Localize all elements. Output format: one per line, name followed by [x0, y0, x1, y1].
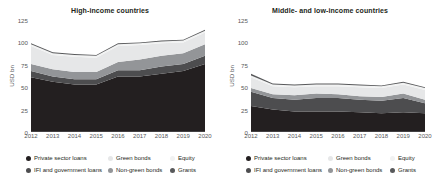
- x-axis-tick: 2016: [331, 133, 344, 139]
- legend-swatch-icon: [108, 168, 113, 173]
- x-axis-tick: 2016: [111, 133, 124, 139]
- legend-item[interactable]: Non-green bonds: [108, 167, 170, 173]
- legend-swatch-icon: [26, 156, 31, 161]
- legend-middle-and-low-income: Private sector loansGreen bondsEquityIFI…: [246, 152, 438, 176]
- legend-item-label: Grants: [178, 167, 196, 173]
- legend-item[interactable]: Grants: [170, 167, 218, 173]
- legend-item-label: Equity: [178, 155, 195, 161]
- legend-item[interactable]: Equity: [170, 155, 218, 161]
- x-axis-tick: 2019: [397, 133, 410, 139]
- y-axis-tick: 100: [18, 39, 28, 46]
- legend-item-label: Green bonds: [116, 155, 151, 161]
- legend-item-label: Equity: [398, 155, 415, 161]
- legend-item[interactable]: Non-green bonds: [328, 167, 390, 173]
- legend-swatch-icon: [108, 156, 113, 161]
- y-axis-tick: 25: [241, 106, 248, 113]
- plot-area-middle-and-low-income: [251, 20, 425, 132]
- plot-area-high-income: [31, 20, 205, 132]
- legend-item-label: Grants: [398, 167, 416, 173]
- y-axis-tick: 125: [18, 17, 28, 24]
- legend-item[interactable]: Private sector loans: [26, 155, 108, 161]
- area-series-high-income: [31, 20, 205, 132]
- legend-item-label: IFI and government loans: [34, 167, 102, 173]
- x-axis-middle-and-low-income: 201220132014201520162017201820192020: [251, 133, 425, 145]
- legend-swatch-icon: [328, 156, 333, 161]
- area-series-middle-and-low-income: [251, 20, 425, 132]
- legend-swatch-icon: [26, 168, 31, 173]
- legend-swatch-icon: [328, 168, 333, 173]
- legend-item[interactable]: IFI and government loans: [26, 167, 108, 173]
- legend-item-label: Private sector loans: [34, 155, 87, 161]
- legend-item-label: Private sector loans: [254, 155, 307, 161]
- legend-item[interactable]: Green bonds: [328, 155, 390, 161]
- legend-high-income: Private sector loansGreen bondsEquityIFI…: [26, 152, 218, 176]
- x-axis-tick: 2012: [24, 133, 37, 139]
- x-axis-tick: 2012: [244, 133, 257, 139]
- y-axis-label-middle-and-low-income: USD bn: [228, 65, 235, 87]
- legend-swatch-icon: [390, 168, 395, 173]
- x-axis-tick: 2014: [288, 133, 301, 139]
- x-axis-tick: 2013: [266, 133, 279, 139]
- y-axis-tick: 75: [241, 61, 248, 68]
- legend-item-label: Non-green bonds: [116, 167, 162, 173]
- legend-item[interactable]: Equity: [390, 155, 438, 161]
- panel-high-income: High-income countries USD bn 02550751001…: [0, 0, 220, 187]
- y-axis-middle-and-low-income: USD bn 0255075100125: [220, 20, 251, 132]
- legend-swatch-icon: [170, 156, 175, 161]
- x-axis-tick: 2017: [133, 133, 146, 139]
- panel-middle-and-low-income: Middle- and low-income countries USD bn …: [220, 0, 440, 187]
- legend-item-label: Green bonds: [336, 155, 371, 161]
- legend-swatch-icon: [170, 168, 175, 173]
- y-axis-label-high-income: USD bn: [8, 65, 15, 87]
- y-axis-tick: 25: [21, 106, 28, 113]
- panel-title-high-income: High-income countries: [0, 7, 220, 14]
- y-axis-tick: 50: [241, 84, 248, 91]
- x-axis-tick: 2018: [155, 133, 168, 139]
- y-axis-tick: 100: [238, 39, 248, 46]
- y-axis-tick: 50: [21, 84, 28, 91]
- x-axis-tick: 2018: [375, 133, 388, 139]
- legend-item-label: IFI and government loans: [254, 167, 322, 173]
- legend-item[interactable]: Green bonds: [108, 155, 170, 161]
- x-axis-tick: 2015: [90, 133, 103, 139]
- legend-swatch-icon: [246, 168, 251, 173]
- legend-item[interactable]: Private sector loans: [246, 155, 328, 161]
- x-axis-tick: 2019: [177, 133, 190, 139]
- legend-item[interactable]: Grants: [390, 167, 438, 173]
- legend-item[interactable]: IFI and government loans: [246, 167, 328, 173]
- x-axis-tick: 2014: [68, 133, 81, 139]
- y-axis-tick: 75: [21, 61, 28, 68]
- panel-title-middle-and-low-income: Middle- and low-income countries: [220, 7, 440, 14]
- x-axis-high-income: 201220132014201520162017201820192020: [31, 133, 205, 145]
- legend-swatch-icon: [390, 156, 395, 161]
- x-axis-tick: 2017: [353, 133, 366, 139]
- legend-item-label: Non-green bonds: [336, 167, 382, 173]
- x-axis-tick: 2013: [46, 133, 59, 139]
- x-axis-tick: 2020: [198, 133, 211, 139]
- y-axis-high-income: USD bn 0255075100125: [0, 20, 31, 132]
- x-axis-tick: 2015: [310, 133, 323, 139]
- legend-swatch-icon: [246, 156, 251, 161]
- stacked-area-chart-figure: High-income countries USD bn 02550751001…: [0, 0, 440, 187]
- y-axis-tick: 125: [238, 17, 248, 24]
- x-axis-tick: 2020: [418, 133, 431, 139]
